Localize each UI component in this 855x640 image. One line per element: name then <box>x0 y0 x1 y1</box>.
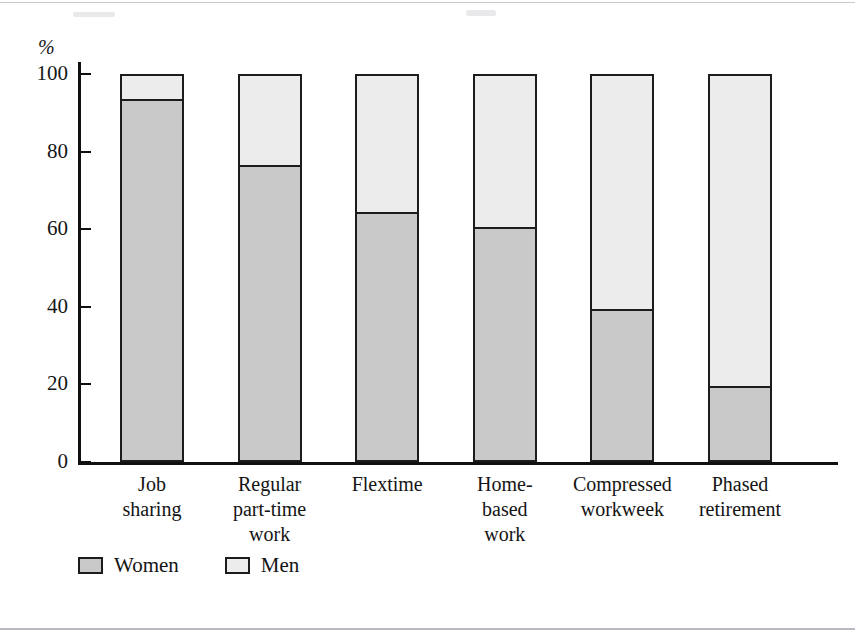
category-label-line: Phased <box>665 472 815 497</box>
bar-segment-women <box>240 165 300 460</box>
stacked-bar <box>120 74 184 462</box>
bar-segment-men <box>357 76 417 216</box>
bar-segment-women <box>475 227 535 460</box>
y-axis-tick-label: 40 <box>8 296 68 317</box>
y-axis-tick-label: 20 <box>8 373 68 394</box>
stacked-bar <box>590 74 654 462</box>
category-label-line: part-time <box>195 497 345 522</box>
bar-segment-men <box>710 76 770 390</box>
bar-segment-women <box>357 212 417 460</box>
bar-segment-women <box>592 309 652 460</box>
y-axis-tick-label: 100 <box>8 63 68 84</box>
stacked-bar <box>355 74 419 462</box>
bar-segment-women <box>710 386 770 460</box>
bar-segment-women <box>122 99 182 460</box>
y-axis-tick-label: 80 <box>8 141 68 162</box>
x-axis-category-label: Phasedretirement <box>665 472 815 522</box>
legend-label-men: Men <box>261 555 300 576</box>
page-rule-bottom <box>0 628 855 630</box>
legend-label-women: Women <box>114 555 179 576</box>
bar-segment-men <box>475 76 535 231</box>
bar-segment-men <box>240 76 300 169</box>
stacked-bar <box>238 74 302 462</box>
y-axis-tick <box>78 228 91 230</box>
x-axis-line <box>78 462 838 465</box>
category-label-line: work <box>195 522 345 547</box>
y-axis-tick-label: 60 <box>8 218 68 239</box>
y-axis-tick <box>78 73 91 75</box>
legend-item-women: Women <box>78 555 179 576</box>
y-axis-line <box>78 62 81 464</box>
category-label-line: work <box>430 522 580 547</box>
y-axis-unit-label: % <box>38 36 55 59</box>
stacked-bar <box>473 74 537 462</box>
y-axis-tick <box>78 151 91 153</box>
stacked-bar-chart-figure: % 100806040200 JobsharingRegularpart-tim… <box>0 0 855 640</box>
legend-item-men: Men <box>225 555 300 576</box>
y-axis-tick <box>78 461 91 463</box>
women-swatch-icon <box>78 557 103 574</box>
stacked-bar <box>708 74 772 462</box>
y-axis-tick-label: 0 <box>8 451 68 472</box>
men-swatch-icon <box>225 557 250 574</box>
category-label-line: retirement <box>665 497 815 522</box>
y-axis-tick <box>78 306 91 308</box>
bar-segment-men <box>592 76 652 313</box>
y-axis-tick <box>78 383 91 385</box>
chart-legend: Women Men <box>78 555 299 576</box>
